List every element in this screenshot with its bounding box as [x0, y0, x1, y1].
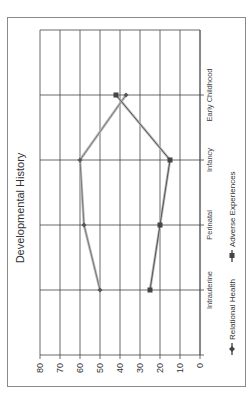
value-tick-label: 40 [115, 363, 125, 373]
category-label: Perinatal [205, 210, 214, 240]
series-line [80, 95, 126, 290]
legend-label: Adverse Experiences [228, 171, 237, 247]
grid-lines [40, 30, 204, 359]
legend-label: Relational Health [228, 279, 237, 340]
chart-title: Developmental History [14, 152, 26, 263]
legend: Relational HealthAdverse Experiences [228, 171, 237, 355]
category-label: Early Childhood [205, 69, 214, 122]
diamond-marker-icon [229, 346, 235, 352]
axis-labels: 01020304050607080IntrauterinePerinatalIn… [35, 69, 214, 373]
square-marker [158, 223, 163, 228]
square-marker [168, 158, 173, 163]
data-series [78, 93, 173, 293]
series-line [116, 95, 170, 290]
legend-item: Adverse Experiences [228, 171, 237, 262]
value-tick-label: 60 [75, 363, 85, 373]
value-tick-label: 30 [135, 363, 145, 373]
series-line-halo [80, 95, 126, 290]
square-marker-icon [230, 253, 235, 258]
square-marker [148, 288, 153, 293]
category-label: Intrauterine [205, 271, 214, 309]
category-label: Infancy [205, 148, 214, 172]
value-tick-label: 0 [195, 363, 205, 368]
legend-item: Relational Health [228, 279, 237, 355]
value-tick-label: 20 [155, 363, 165, 373]
value-tick-label: 50 [95, 363, 105, 373]
value-tick-label: 70 [55, 363, 65, 373]
value-tick-label: 80 [35, 363, 45, 373]
developmental-history-chart: 01020304050607080IntrauterinePerinatalIn… [0, 0, 251, 393]
value-tick-label: 10 [175, 363, 185, 373]
square-marker [114, 93, 119, 98]
series-line-halo [116, 95, 170, 290]
